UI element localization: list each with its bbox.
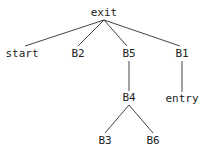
edge-B4-B6	[129, 105, 153, 133]
node-B4: B4	[122, 91, 136, 104]
dominator-tree-diagram: exit start B2 B5 B1 B4 entry B3 B6	[0, 0, 205, 150]
node-entry: entry	[165, 92, 198, 105]
edge-exit-start	[25, 20, 104, 46]
edge-B4-B3	[105, 105, 129, 133]
node-B1: B1	[175, 47, 188, 60]
node-exit: exit	[91, 6, 118, 19]
node-start: start	[5, 47, 38, 60]
nodes: exit start B2 B5 B1 B4 entry B3 B6	[5, 6, 198, 147]
node-B6: B6	[146, 134, 159, 147]
node-B3: B3	[98, 134, 111, 147]
edges	[25, 20, 182, 133]
node-B2: B2	[71, 47, 84, 60]
node-B5: B5	[122, 47, 135, 60]
